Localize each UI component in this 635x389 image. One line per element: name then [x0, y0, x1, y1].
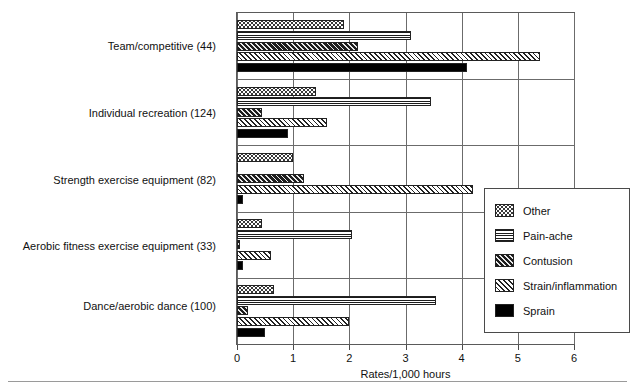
bar-strength-exercise-equipment-82-sprain: [237, 195, 243, 204]
bar-individual-recreation-124-contusion: [237, 108, 262, 117]
bar-aerobic-fitness-exercise-equipment-33-strain-inflammation: [237, 251, 271, 260]
y-axis-label-3: Aerobic fitness exercise equipment (33): [0, 240, 228, 252]
bar-team-competitive-44-other: [237, 20, 344, 29]
bar-dance-aerobic-dance-100-other: [237, 285, 274, 294]
x-tick-3: [406, 345, 407, 350]
legend-swatch-sprain-icon: [495, 304, 514, 317]
bar-dance-aerobic-dance-100-contusion: [237, 306, 248, 315]
bar-dance-aerobic-dance-100-sprain: [237, 328, 265, 337]
legend-swatch-strain-icon: [495, 279, 514, 292]
legend-item-contusion: Contusion: [495, 248, 629, 273]
y-axis-label-1: Individual recreation (124): [0, 107, 228, 119]
bar-group-individual-recreation-124: [237, 79, 574, 145]
x-tick-5: [518, 345, 519, 350]
bar-dance-aerobic-dance-100-strain-inflammation: [237, 317, 349, 326]
bar-strength-exercise-equipment-82-pain-ache: [237, 163, 238, 172]
bar-group-team-competitive-44: [237, 13, 574, 79]
x-tick-label-4: 4: [450, 352, 474, 364]
bar-aerobic-fitness-exercise-equipment-33-pain-ache: [237, 230, 352, 239]
chart-figure: Team/competitive (44) Individual recreat…: [0, 0, 635, 389]
bar-aerobic-fitness-exercise-equipment-33-other: [237, 219, 262, 228]
bar-individual-recreation-124-other: [237, 87, 316, 96]
x-tick-2: [349, 345, 350, 350]
x-tick-label-5: 5: [506, 352, 530, 364]
x-tick-label-1: 1: [281, 352, 305, 364]
y-axis-label-4: Dance/aerobic dance (100): [0, 300, 228, 312]
x-axis-title: Rates/1,000 hours: [236, 368, 575, 380]
bar-strength-exercise-equipment-82-other: [237, 153, 293, 162]
x-tick-4: [462, 345, 463, 350]
legend-item-sprain: Sprain: [495, 298, 629, 323]
legend-label-pain-ache: Pain-ache: [523, 230, 573, 242]
legend-item-other: Other: [495, 198, 629, 223]
legend-box: Other Pain-ache Contusion Strain/inflamm…: [484, 188, 630, 333]
legend-item-pain-ache: Pain-ache: [495, 223, 629, 248]
x-tick-6: [574, 345, 575, 350]
legend-label-strain-inflammation: Strain/inflammation: [523, 280, 617, 292]
legend-swatch-contusion-icon: [495, 254, 514, 267]
bar-dance-aerobic-dance-100-pain-ache: [237, 296, 436, 305]
bar-team-competitive-44-pain-ache: [237, 31, 411, 40]
x-tick-label-2: 2: [337, 352, 361, 364]
legend-swatch-other-icon: [495, 204, 514, 217]
y-axis-label-2: Strength exercise equipment (82): [0, 174, 228, 186]
bar-strength-exercise-equipment-82-strain-inflammation: [237, 185, 473, 194]
bar-aerobic-fitness-exercise-equipment-33-sprain: [237, 261, 243, 270]
legend-label-contusion: Contusion: [523, 255, 573, 267]
bar-individual-recreation-124-strain-inflammation: [237, 118, 327, 127]
y-axis-label-0: Team/competitive (44): [0, 40, 228, 52]
legend-item-strain-inflammation: Strain/inflammation: [495, 273, 629, 298]
x-tick-label-0: 0: [225, 352, 249, 364]
legend-label-other: Other: [523, 205, 551, 217]
bar-individual-recreation-124-sprain: [237, 129, 288, 138]
legend-swatch-pain-ache-icon: [495, 229, 514, 242]
x-tick-label-3: 3: [394, 352, 418, 364]
bar-team-competitive-44-strain-inflammation: [237, 52, 540, 61]
x-tick-label-6: 6: [562, 352, 586, 364]
x-tick-0: [237, 345, 238, 350]
bar-aerobic-fitness-exercise-equipment-33-contusion: [237, 240, 240, 249]
legend-label-sprain: Sprain: [523, 305, 555, 317]
footer-divider: [8, 381, 627, 382]
bar-team-competitive-44-sprain: [237, 63, 467, 72]
bar-team-competitive-44-contusion: [237, 42, 358, 51]
bar-strength-exercise-equipment-82-contusion: [237, 174, 304, 183]
bar-individual-recreation-124-pain-ache: [237, 97, 431, 106]
x-tick-1: [293, 345, 294, 350]
